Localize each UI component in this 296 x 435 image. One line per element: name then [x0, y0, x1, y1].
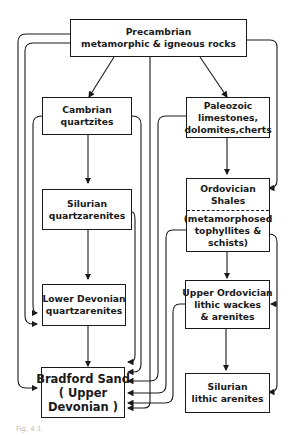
- edge-paleozoic-bradford: [128, 116, 186, 381]
- edge-precambrian-lowerdevonian: [25, 43, 70, 324]
- node-text: Paleozoic: [204, 100, 253, 112]
- figure-caption: Fig. 4.1: [16, 425, 42, 433]
- node-text: Lower Devonian: [42, 293, 125, 305]
- node-text: & arenites: [201, 311, 255, 323]
- node-text: limestones,: [198, 112, 258, 124]
- edge-cambrian-lowerdevonian: [33, 116, 42, 313]
- node-text: quartzarenites: [49, 210, 125, 222]
- node-text: Silurian: [67, 198, 107, 210]
- edge-precambrian-paleozoic: [200, 57, 227, 97]
- node-text: Ordovician: [200, 183, 256, 195]
- node-lower-devonian-quartzarenites: Lower Devonian quartzarenites: [42, 284, 126, 326]
- edge-precambrian-cambrian: [89, 57, 114, 97]
- node-cambrian-quartzites: Cambrian quartzites: [42, 97, 132, 135]
- node-text: Silurian: [208, 381, 248, 393]
- node-text: Bradford Sand: [36, 372, 130, 386]
- node-upper-ordovician-lithics: Upper Ordovician lithic wackes & arenite…: [185, 280, 270, 329]
- edge-ordovician-bradford: [128, 230, 186, 393]
- node-text: Devonian ): [48, 400, 118, 414]
- node-text: Cambrian: [62, 104, 112, 116]
- node-text: Shales: [211, 195, 245, 207]
- node-text: schists): [208, 237, 248, 249]
- node-text: Upper Ordovician: [182, 287, 272, 299]
- node-text: tophyllites &: [195, 225, 262, 237]
- edge-ordovician-silurianl: [269, 234, 277, 392]
- node-text: lithic wackes: [194, 299, 261, 311]
- node-text: dolomites,cherts: [184, 124, 271, 136]
- node-ordovician-shales: Ordovician Shales (metamorphosed tophyll…: [186, 178, 270, 252]
- node-text: metamorphic & igneous rocks: [81, 38, 236, 50]
- node-text: quartzites: [61, 116, 114, 128]
- node-silurian-quartzarenites: Silurian quartzarenites: [42, 189, 132, 230]
- node-text: ( Upper: [59, 386, 108, 400]
- edge-silurianq-bradford: [128, 212, 135, 362]
- node-precambrian: Precambrian metamorphic & igneous rocks: [70, 19, 247, 57]
- node-text: quartzarenites: [46, 305, 122, 317]
- node-silurian-lithic-arenites: Silurian lithic arenites: [185, 373, 270, 413]
- node-text: (metamorphosed: [184, 213, 273, 225]
- node-text: lithic arenites: [192, 393, 264, 405]
- node-bradford-sand: Bradford Sand ( Upper Devonian ): [41, 367, 125, 418]
- edge-upperordovician-bradford: [128, 304, 186, 403]
- node-text: Precambrian: [126, 26, 192, 38]
- node-paleozoic-carbonates: Paleozoic limestones, dolomites,cherts: [186, 97, 270, 138]
